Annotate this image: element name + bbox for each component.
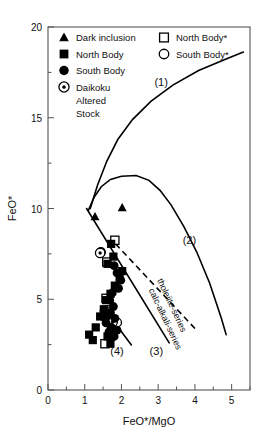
data-point	[110, 332, 119, 341]
legend-item-daikoku: Daikoku	[59, 82, 110, 93]
x-tick-label: 3	[155, 395, 161, 406]
annotation-1: (1)	[154, 76, 167, 88]
data-point	[110, 314, 119, 323]
y-tick-label: 5	[36, 294, 42, 305]
legend-label: Daikoku	[76, 82, 110, 93]
y-tick-label: 0	[36, 385, 42, 396]
data-point	[89, 336, 97, 344]
data-point	[107, 240, 115, 248]
filled-square-legend-icon	[60, 50, 69, 59]
chart-svg: 01234505101520 (1)(2)(3)(4)tholeiite-ser…	[0, 0, 264, 439]
x-axis-title: FeO*/MgO	[123, 415, 176, 427]
chart-figure: 01234505101520 (1)(2)(3)(4)tholeiite-ser…	[0, 0, 264, 439]
x-tick-label: 5	[229, 395, 235, 406]
x-tick-label: 0	[45, 395, 51, 406]
marker-center-dot	[98, 251, 101, 254]
data-point	[92, 323, 100, 331]
legend-label: North Body*	[176, 32, 228, 43]
legend-item-altered: Altered	[76, 95, 106, 106]
chart-background	[0, 0, 264, 439]
legend-label: Altered	[76, 95, 106, 106]
x-tick-label: 2	[119, 395, 125, 406]
y-tick-label: 15	[31, 113, 43, 124]
marker-center-dot	[62, 85, 66, 89]
data-point	[109, 252, 117, 260]
open-square-legend-icon	[160, 33, 169, 42]
x-tick-label: 1	[82, 395, 88, 406]
y-tick-label: 20	[31, 22, 43, 33]
data-point	[116, 276, 125, 285]
y-axis-title: FeO*	[6, 195, 18, 221]
legend-label: Dark inclusion	[76, 32, 136, 43]
annotation-3: (3)	[150, 345, 163, 357]
filled-circle-legend-icon	[59, 66, 69, 76]
x-tick-label: 4	[192, 395, 198, 406]
open-circle-legend-icon	[159, 49, 169, 59]
legend-item-stock: Stock	[76, 108, 100, 119]
data-point	[106, 340, 114, 348]
y-tick-label: 10	[31, 204, 43, 215]
annotation-2: (2)	[183, 234, 196, 246]
legend-label: South Body*	[176, 49, 229, 60]
legend-label: South Body	[76, 65, 125, 76]
legend-label: North Body	[76, 49, 124, 60]
legend-label: Stock	[76, 108, 100, 119]
